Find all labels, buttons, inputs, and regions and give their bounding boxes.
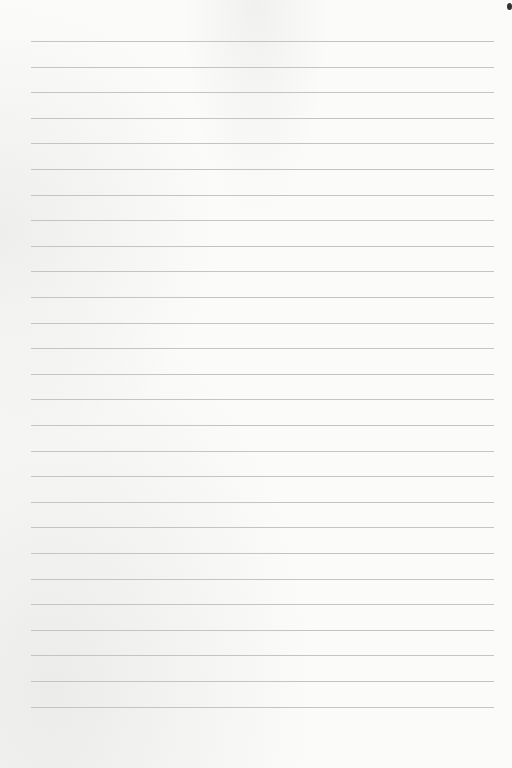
ruled-line <box>31 579 494 580</box>
ruled-line <box>31 476 494 477</box>
ruled-line <box>31 220 494 221</box>
ruled-line <box>31 681 494 682</box>
ruled-line <box>31 707 494 708</box>
ruled-line <box>31 92 494 93</box>
ruled-line <box>31 118 494 119</box>
corner-mark <box>507 3 512 10</box>
ruled-line <box>31 451 494 452</box>
ruled-line <box>31 655 494 656</box>
ruled-line <box>31 246 494 247</box>
ruled-line <box>31 527 494 528</box>
ruled-line <box>31 630 494 631</box>
lined-paper-sheet <box>0 0 512 768</box>
ruled-line <box>31 297 494 298</box>
ruled-line <box>31 502 494 503</box>
ruled-line <box>31 41 494 42</box>
ruled-line <box>31 604 494 605</box>
ruled-line <box>31 195 494 196</box>
ruled-line <box>31 323 494 324</box>
ruled-line <box>31 143 494 144</box>
ruled-line <box>31 425 494 426</box>
ruled-line <box>31 553 494 554</box>
ruled-line <box>31 374 494 375</box>
ruled-line <box>31 67 494 68</box>
ruled-line <box>31 348 494 349</box>
ruled-line <box>31 169 494 170</box>
ruled-line <box>31 399 494 400</box>
ruled-line <box>31 271 494 272</box>
